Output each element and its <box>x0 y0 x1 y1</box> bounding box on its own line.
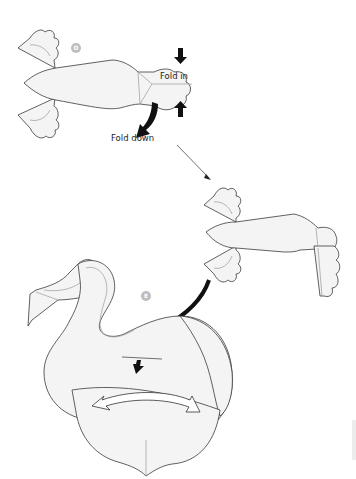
intermediate-lower-wing <box>204 246 241 282</box>
step-d-upper-wing <box>18 30 59 68</box>
step-d-badge-letter: D <box>74 44 79 51</box>
intermediate-tail <box>314 246 340 297</box>
step-d-figure: D Fold in Fold down <box>18 30 192 143</box>
step-d-lower-wing <box>18 98 59 138</box>
transition-arrowhead-icon <box>204 174 211 180</box>
fold-in-label: Fold in <box>160 71 188 81</box>
transition-arrow <box>177 145 211 180</box>
edge-shadow <box>352 420 356 460</box>
step-e-badge-letter: E <box>144 292 148 299</box>
intermediate-upper-wing <box>204 188 241 222</box>
fold-in-arrow-down-icon <box>174 48 187 64</box>
intermediate-figure <box>204 188 340 297</box>
fold-down-label: Fold down <box>111 133 154 143</box>
origami-diagram: D Fold in Fold down <box>0 0 356 479</box>
